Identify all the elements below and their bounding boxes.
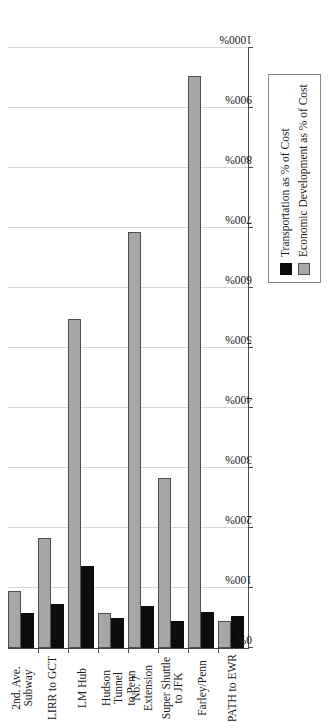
bar-economic-development [218,621,231,648]
value-tick-label: 1000% [219,34,252,46]
value-tick-label: 600% [225,274,252,286]
category-tick [188,648,189,653]
bar-group [38,48,68,648]
bar-economic-development [68,319,81,648]
category-label-line: Super Shuttle [160,653,173,723]
category-label-line: Farley/Penn [196,653,209,723]
category-label-line: Subway [22,653,35,723]
category-tick [38,648,39,653]
category-label-line: to JFK [172,653,185,723]
value-tick-label: 900% [225,94,252,106]
category-label-line: LM Hub [76,653,89,723]
value-tick-label: 500% [225,334,252,346]
chart-legend: Transportation as % of CostEconomic Deve… [268,74,321,283]
bar-transportation [111,618,124,648]
bar-group [68,48,98,648]
bar-transportation [51,604,64,648]
rotated-figure-wrapper: 0%100%200%300%400%500%600%700%800%900%10… [0,0,335,723]
bar-group [218,48,248,648]
category-label: Super Shuttleto JFK [160,653,185,723]
value-tick-label: 800% [225,154,252,166]
legend-item: Transportation as % of Cost [278,84,293,275]
bar-transportation [141,606,154,648]
category-label-line: Hudson Tunnel [100,653,125,723]
category-tick [68,648,69,653]
category-label: LM Hub [76,653,89,723]
value-tick-label: 0% [237,634,252,646]
category-label: PATH to EWR [226,653,239,723]
bar-group [128,48,158,648]
bar-group [98,48,128,648]
category-label-line: No. 7 [130,653,143,723]
category-label: LIRR to GCT [46,653,59,723]
value-tick-label: 100% [225,574,252,586]
legend-label: Economic Development as % of Cost [296,84,311,257]
bar-economic-development [8,591,21,648]
bar-group [158,48,188,648]
legend-label: Transportation as % of Cost [278,128,293,257]
category-tick [218,648,219,653]
plot-area [8,48,248,649]
category-label-line: 2nd. Ave. [10,653,23,723]
category-label: 2nd. Ave.Subway [10,653,35,723]
bar-transportation [21,613,34,648]
bar-economic-development [158,478,171,648]
category-label: No. 7Extension [130,653,155,723]
bar-economic-development [188,76,201,648]
bar-chart-figure: 0%100%200%300%400%500%600%700%800%900%10… [0,0,335,723]
category-label-line: PATH to EWR [226,653,239,723]
legend-swatch-trans [280,263,292,275]
value-axis-line [248,48,249,649]
legend-item: Economic Development as % of Cost [296,84,311,275]
category-label-line: LIRR to GCT [46,653,59,723]
category-label: Farley/Penn [196,653,209,723]
value-tick-label: 700% [225,214,252,226]
category-label-line: Extension [142,653,155,723]
bar-transportation [201,612,214,648]
bar-economic-development [38,538,51,648]
bar-economic-development [128,232,141,648]
value-tick-label: 200% [225,514,252,526]
bar-transportation [171,621,184,648]
value-tick-label: 400% [225,394,252,406]
value-tick-label: 300% [225,454,252,466]
legend-swatch-econ [298,263,310,275]
bar-transportation [81,566,94,648]
bar-group [8,48,38,648]
bar-group [188,48,218,648]
bar-economic-development [98,613,111,648]
